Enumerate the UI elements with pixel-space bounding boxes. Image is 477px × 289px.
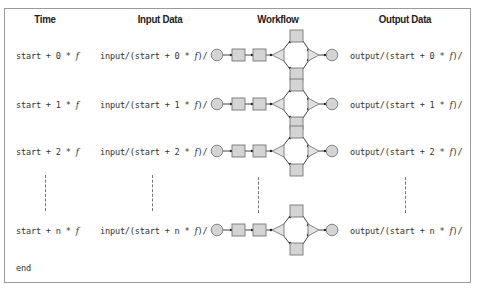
- ellipsis-line-time: [45, 175, 46, 211]
- time-cell-n: start + n * f: [16, 226, 79, 236]
- input-cell-2: input/(start + 2 * f)/: [100, 147, 207, 157]
- input-cell-n: input/(start + n * f)/: [100, 226, 207, 236]
- ellipsis-line-output: [405, 177, 406, 213]
- end-label: end: [16, 263, 31, 273]
- time-cell-0: start + 0 * f: [16, 51, 79, 61]
- output-cell-n: output/(start + n * f)/: [350, 226, 462, 236]
- workflow-diagram-0: [205, 27, 345, 83]
- ellipsis-line-input: [152, 175, 153, 211]
- input-cell-1: input/(start + 1 * f)/: [100, 100, 207, 110]
- header-output-data: Output Data: [365, 13, 444, 25]
- header-workflow: Workflow: [243, 13, 313, 25]
- workflow-diagram-n: [205, 202, 345, 258]
- time-cell-1: start + 1 * f: [16, 100, 79, 110]
- output-cell-2: output/(start + 2 * f)/: [350, 147, 462, 157]
- input-cell-0: input/(start + 0 * f)/: [100, 51, 207, 61]
- header-time: Time: [23, 13, 67, 25]
- output-cell-0: output/(start + 0 * f)/: [350, 51, 462, 61]
- workflow-diagram-2: [205, 123, 345, 179]
- output-cell-1: output/(start + 1 * f)/: [350, 100, 462, 110]
- time-cell-2: start + 2 * f: [16, 147, 79, 157]
- header-input-data: Input Data: [125, 13, 195, 25]
